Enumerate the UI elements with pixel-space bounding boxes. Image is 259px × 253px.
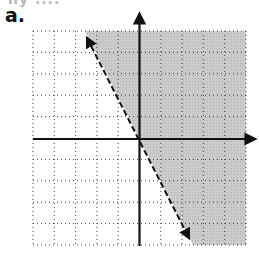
inequality-graph (0, 0, 259, 253)
